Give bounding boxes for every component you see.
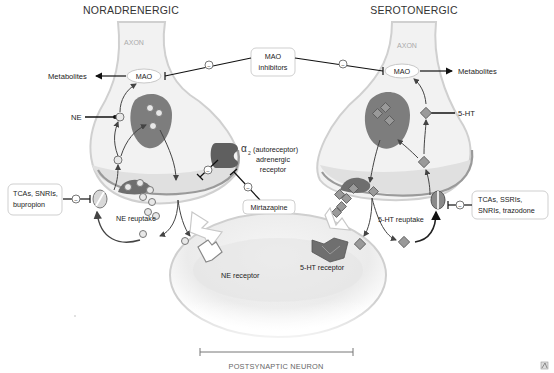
svg-text:MAO: MAO	[136, 72, 153, 81]
svg-text:−: −	[246, 185, 250, 191]
svg-text:Mirtazapine: Mirtazapine	[250, 203, 287, 212]
mao-left: MAO	[127, 69, 161, 83]
axon-label-left: AXON	[124, 39, 144, 46]
alpha-symbol: α	[241, 143, 247, 154]
serotonin-transporter	[431, 191, 445, 209]
ne-reuptake-blockers-box: TCAs, SNRIs, bupropion	[8, 184, 62, 215]
svg-text:2: 2	[248, 150, 251, 156]
ht-receptor-label: 5-HT receptor	[300, 263, 345, 272]
svg-text:receptor: receptor	[260, 165, 287, 174]
svg-text:adrenergic: adrenergic	[256, 155, 290, 164]
svg-text:−: −	[341, 62, 345, 68]
stray-dot	[74, 315, 76, 317]
noradrenergic-terminal	[90, 22, 240, 203]
svg-text:inhibitors: inhibitors	[259, 63, 288, 72]
metabolites-right: Metabolites	[458, 67, 497, 76]
title-noradrenergic: NORADRENERGIC	[83, 4, 179, 16]
publisher-logo-icon	[541, 362, 548, 369]
svg-text:−: −	[207, 63, 211, 69]
mao-inhibitors-box: MAO inhibitors	[251, 48, 295, 76]
title-serotonergic: SEROTONERGIC	[370, 4, 458, 16]
five-ht-label: 5-HT	[458, 109, 475, 118]
svg-text:bupropion: bupropion	[13, 200, 45, 209]
ne-label: NE	[71, 113, 82, 122]
ht-reuptake-blockers-box: TCAs, SSRIs, SNRIs, trazodone	[472, 191, 548, 219]
mao-right: MAO	[385, 64, 419, 78]
ne-reuptake-label: NE reuptake	[116, 214, 156, 223]
metabolites-left: Metabolites	[48, 72, 87, 81]
svg-text:−: −	[74, 197, 78, 203]
svg-text:−: −	[458, 203, 462, 209]
ne-transporter	[93, 190, 107, 208]
svg-text:−: −	[206, 168, 210, 174]
postsynaptic-label: POSTSYNAPTIC NEURON	[229, 362, 324, 371]
synapse-diagram: NORADRENERGIC SEROTONERGIC AXON AXON MAO…	[0, 0, 554, 373]
ht-reuptake-label: 5-HT reuptake	[378, 215, 424, 224]
ne-receptor-label: NE receptor	[221, 271, 260, 280]
serotonergic-terminal	[317, 22, 472, 200]
svg-text:SNRIs, trazodone: SNRIs, trazodone	[478, 206, 535, 215]
svg-text:MAO: MAO	[265, 52, 282, 61]
svg-text:TCAs, SSRIs,: TCAs, SSRIs,	[478, 195, 522, 204]
svg-text:TCAs, SNRIs,: TCAs, SNRIs,	[13, 189, 58, 198]
alpha2-label-line1: (autoreceptor)	[253, 145, 298, 154]
mirtazapine-box: Mirtazapine	[243, 200, 295, 214]
svg-text:MAO: MAO	[394, 67, 411, 76]
axon-label-right: AXON	[397, 42, 417, 49]
